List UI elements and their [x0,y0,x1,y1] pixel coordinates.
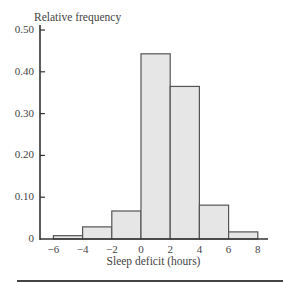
bottom-rule [17,280,283,282]
x-tick-label: −6 [43,244,63,255]
histogram-bar [170,86,199,239]
x-tick-label: 8 [248,244,268,255]
plot-area [0,0,283,282]
x-tick-label: 4 [189,244,209,255]
y-tick-label: 0.40 [4,66,34,77]
y-tick-label: 0 [4,233,34,244]
y-tick-label: 0.20 [4,149,34,160]
y-tick-label: 0.10 [4,191,34,202]
x-tick-label: −2 [102,244,122,255]
histogram-bar [112,211,141,239]
x-tick-label: 0 [131,244,151,255]
histogram-bar [141,54,170,239]
x-axis-title: Sleep deficit (hours) [0,256,283,268]
x-tick-label: 2 [160,244,180,255]
y-tick-label: 0.30 [4,108,34,119]
histogram-bar [83,227,112,239]
y-axis-title: Relative frequency [34,12,121,24]
y-tick-label: 0.50 [4,24,34,35]
x-tick-label: −4 [73,244,93,255]
x-tick-label: 6 [219,244,239,255]
histogram-bar [229,232,258,239]
histogram-bar [199,205,228,239]
histogram-chart: Relative frequency 00.100.200.300.400.50… [0,0,283,282]
